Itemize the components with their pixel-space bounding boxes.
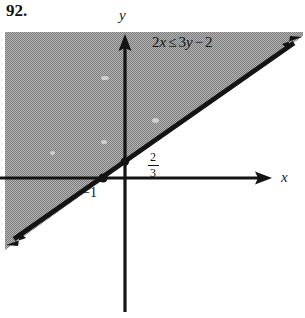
inequality-rhs-coeff: 3	[178, 34, 186, 50]
inequality-lhs-coeff: 2	[152, 34, 160, 50]
inequality-rhs-var: y	[186, 34, 193, 50]
inequality-rhs-constant: 2	[205, 34, 213, 50]
x-intercept-label: −1	[82, 186, 97, 200]
y-axis-label: y	[119, 8, 126, 23]
inequality-rhs-operator: −	[193, 34, 205, 50]
paper-speckle	[152, 118, 159, 123]
x-intercept-point	[98, 173, 107, 182]
fraction-numerator: 2	[145, 151, 161, 164]
inequality-relation-symbol: ≤	[166, 34, 178, 50]
inequality-graph-figure: 92.	[0, 0, 305, 318]
paper-speckle	[101, 76, 109, 80]
paper-speckle	[50, 151, 55, 155]
y-intercept-point	[121, 157, 129, 165]
x-axis-label: x	[281, 170, 288, 185]
fraction-denominator: 3	[145, 167, 161, 180]
inequality-annotation: 2x≤3y−2	[152, 35, 213, 50]
paper-speckle	[101, 140, 107, 144]
y-intercept-label: 2 3	[145, 151, 161, 179]
